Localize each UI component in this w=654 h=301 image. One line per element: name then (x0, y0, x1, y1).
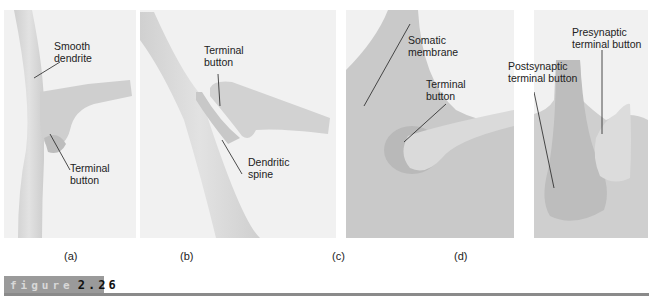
label-somatic-membrane: Somatic membrane (408, 34, 458, 58)
label-terminal-button: Terminal button (204, 44, 244, 68)
label-terminal-button: Terminal button (426, 78, 466, 102)
label-line: spine (248, 168, 289, 180)
label-line: terminal button (508, 72, 577, 84)
label-postsynaptic-terminal-button: Postsynaptic terminal button (508, 60, 577, 84)
figure-rule (4, 293, 649, 296)
label-line: Terminal (426, 78, 466, 90)
panel-c: Somatic membrane Terminal button (346, 10, 514, 238)
label-line: button (204, 56, 244, 68)
panel-b: Terminal button Dendritic spine (140, 10, 336, 238)
caption-b: (b) (180, 250, 193, 262)
figure-label: figure 2.26 (4, 276, 104, 294)
label-line: Presynaptic (572, 26, 641, 38)
caption-d: (d) (454, 250, 467, 262)
caption-a: (a) (64, 250, 77, 262)
caption-c: (c) (332, 250, 345, 262)
label-line: button (70, 174, 110, 186)
label-line: terminal button (572, 38, 641, 50)
label-dendritic-spine: Dendritic spine (248, 156, 289, 180)
figure-number: 2.26 (78, 278, 119, 292)
label-line: dendrite (54, 52, 92, 64)
label-line: Dendritic (248, 156, 289, 168)
label-line: Smooth (54, 40, 92, 52)
panel-a: Smooth dendrite Terminal button (4, 10, 136, 238)
label-terminal-button: Terminal button (70, 162, 110, 186)
label-line: Terminal (70, 162, 110, 174)
label-smooth-dendrite: Smooth dendrite (54, 40, 92, 64)
label-line: Somatic (408, 34, 458, 46)
figure-word: figure (10, 279, 74, 292)
panel-d: Presynaptic terminal button (534, 10, 648, 238)
label-presynaptic-terminal-button: Presynaptic terminal button (572, 26, 641, 50)
label-line: button (426, 90, 466, 102)
label-line: membrane (408, 46, 458, 58)
label-line: Postsynaptic (508, 60, 577, 72)
label-line: Terminal (204, 44, 244, 56)
